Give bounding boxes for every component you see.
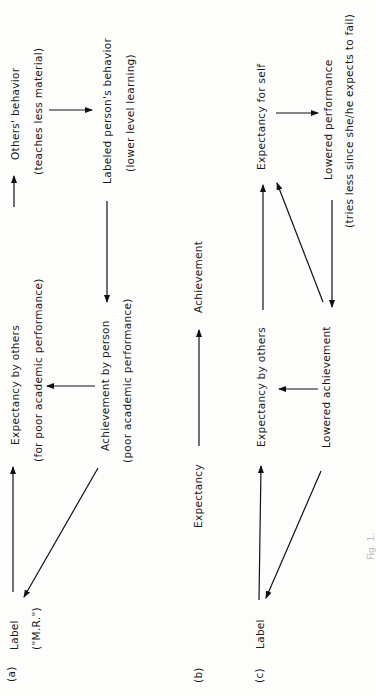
figure-caption: Fig. 1. <box>366 533 376 560</box>
panel-a-tag: (a) <box>5 666 17 682</box>
achievement-by-person-node: Achievement by person <box>99 320 111 451</box>
expectancy-for-self-node: Expectancy for self <box>255 64 267 170</box>
label-node: Label <box>8 620 20 650</box>
lowered-performance-node: Lowered performance <box>322 59 334 180</box>
expectancy-by-others-node: Expectancy by others <box>9 325 21 445</box>
labeled-person-behavior-sub: (lower level learning) <box>124 54 136 172</box>
lowered-achievement-node: Lowered achievement <box>320 326 332 448</box>
label-node-sub: ("M.R.") <box>30 607 42 650</box>
achievement-node: Achievement <box>192 241 204 313</box>
panel-b-tag: (b) <box>192 667 204 683</box>
achievement-by-person-sub: (poor academic performance) <box>121 298 133 463</box>
expectancy-by-others-node-c: Expectancy by others <box>255 327 267 447</box>
labeled-person-behavior-node: Labeled person's behavior <box>101 38 113 184</box>
panel-c-tag: (c) <box>253 668 265 683</box>
others-behavior-sub: (teaches less material) <box>32 48 44 175</box>
label-node-c: Label <box>254 619 266 649</box>
expectancy-node: Expectancy <box>192 464 204 528</box>
others-behavior-node: Others' behavior <box>9 68 21 160</box>
lowered-performance-sub: (tries less since she/he expects to fail… <box>343 14 355 228</box>
expectancy-by-others-sub: (for poor academic performance) <box>32 278 44 462</box>
